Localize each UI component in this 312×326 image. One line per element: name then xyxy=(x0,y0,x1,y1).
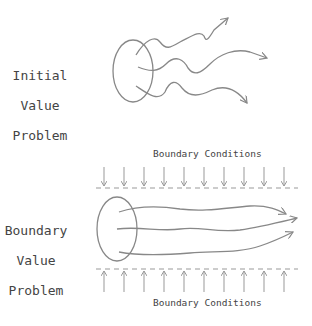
diagram-canvas xyxy=(0,0,312,326)
ivp-trajectory-1 xyxy=(136,18,228,55)
bvp-trajectory-2 xyxy=(117,218,297,231)
ivp-diagram xyxy=(113,18,267,103)
bvp-diagram xyxy=(97,197,297,261)
ivp-trajectory-2 xyxy=(138,51,267,73)
bvp-trajectory-3 xyxy=(119,232,293,255)
ivp-trajectory-3 xyxy=(136,82,247,103)
bvp-trajectory-1 xyxy=(119,206,286,214)
top-boundary xyxy=(96,167,298,188)
bottom-boundary xyxy=(96,269,298,292)
